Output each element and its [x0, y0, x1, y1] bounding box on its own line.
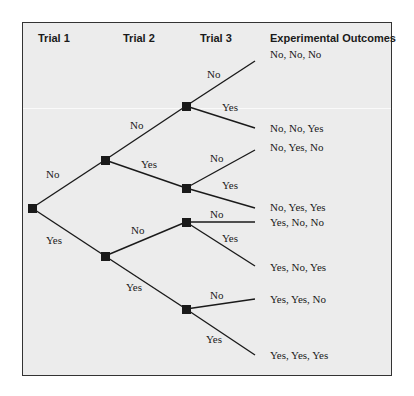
outcome-6: Yes, No, Yes [270, 261, 326, 273]
outcome-7: Yes, Yes, No [270, 293, 326, 305]
branch-t3-ny-yes [186, 188, 255, 208]
header-trial-2: Trial 2 [123, 32, 155, 44]
label-t3-nn-yes: Yes [222, 101, 238, 113]
branch-t3-yy-yes [186, 309, 255, 355]
branch-t2-no-no [105, 106, 186, 160]
label-t2-no-yes: Yes [141, 158, 157, 170]
label-t2-yes-yes: Yes [126, 281, 142, 293]
label-t3-yy-no: No [210, 289, 223, 301]
header-trial-3: Trial 3 [200, 32, 232, 44]
label-t3-nn-no: No [207, 68, 220, 80]
outcome-4: No, Yes, Yes [270, 201, 326, 213]
label-t1-yes: Yes [46, 234, 62, 246]
node-t2-yes [101, 252, 110, 261]
branch-t3-yn-yes [186, 222, 255, 266]
label-t3-yn-yes: Yes [222, 232, 238, 244]
branch-t3-nn-no [186, 61, 255, 106]
label-t1-no: No [46, 168, 59, 180]
outcome-2: No, No, Yes [270, 122, 324, 134]
node-t3-yn [182, 218, 191, 227]
label-t3-yy-yes: Yes [206, 333, 222, 345]
label-t3-yn-no: No [210, 208, 223, 220]
node-t3-yy [182, 305, 191, 314]
header-trial-1: Trial 1 [38, 32, 70, 44]
label-t2-no-no: No [130, 119, 143, 131]
branch-t2-yes-no [105, 222, 186, 256]
outcome-3: No, Yes, No [270, 141, 324, 153]
branch-t3-nn-yes [186, 106, 255, 128]
label-t2-yes-no: No [131, 224, 144, 236]
node-t3-ny [182, 184, 191, 193]
branch-t1-no [32, 160, 105, 208]
outcome-1: No, No, No [270, 48, 321, 60]
outcome-8: Yes, Yes, Yes [270, 349, 328, 361]
outcome-5: Yes, No, No [270, 216, 324, 228]
node-t3-nn [182, 102, 191, 111]
node-root [28, 204, 37, 213]
node-t2-no [101, 156, 110, 165]
branch-t1-yes [32, 208, 105, 256]
branch-t2-yes-yes [105, 256, 186, 309]
label-t3-ny-yes: Yes [222, 179, 238, 191]
label-t3-ny-no: No [210, 152, 223, 164]
header-experimental-outcomes: Experimental Outcomes [270, 32, 396, 44]
